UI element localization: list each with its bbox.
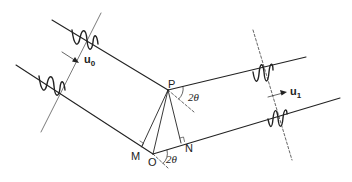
scattered-arrow-head <box>280 90 287 96</box>
angle-arc-P <box>179 87 183 100</box>
bragg-reflection-diagram: P M O N 2θ 2θ u0 u1 <box>0 0 352 182</box>
label-N: N <box>185 142 193 154</box>
scattered-vector-label: u1 <box>290 85 302 100</box>
wave-packet-scattered-upper <box>253 64 273 81</box>
incident-vector-label: u0 <box>84 53 96 68</box>
label-O: O <box>148 156 157 168</box>
label-P: P <box>168 78 175 90</box>
segment-PO <box>153 90 168 154</box>
incident-ray-lower <box>16 65 153 154</box>
scattered-wavefront <box>253 30 292 160</box>
scattered-arrow-shaft <box>268 93 283 97</box>
angle-label-top: 2θ <box>188 91 200 103</box>
angle-label-bottom: 2θ <box>166 153 178 165</box>
scattered-ray-lower <box>153 98 340 154</box>
incident-arrow-head <box>72 57 79 63</box>
segment-PM <box>142 90 168 146</box>
incident-ray-upper <box>52 20 168 90</box>
segment-PN <box>168 90 181 143</box>
scattered-ray-upper <box>168 57 306 90</box>
label-M: M <box>131 150 140 162</box>
